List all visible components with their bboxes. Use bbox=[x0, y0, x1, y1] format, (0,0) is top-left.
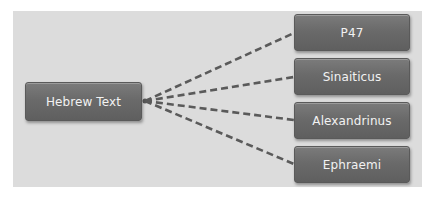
node-sinaiticus: Sinaiticus bbox=[294, 58, 410, 95]
connector-ephraemi bbox=[145, 101, 294, 164]
node-label: Alexandrinus bbox=[312, 114, 391, 128]
node-p47: P47 bbox=[294, 14, 410, 51]
node-label: Hebrew Text bbox=[46, 95, 121, 109]
connector-origin-dot bbox=[143, 99, 148, 104]
node-hebrew-text: Hebrew Text bbox=[25, 82, 142, 121]
node-label: Ephraemi bbox=[323, 158, 381, 172]
node-label: Sinaiticus bbox=[323, 70, 382, 84]
node-alexandrinus: Alexandrinus bbox=[294, 102, 410, 139]
connector-sinaiticus bbox=[145, 77, 294, 101]
node-label: P47 bbox=[341, 26, 364, 40]
connector-p47 bbox=[145, 33, 294, 101]
node-ephraemi: Ephraemi bbox=[294, 146, 410, 183]
